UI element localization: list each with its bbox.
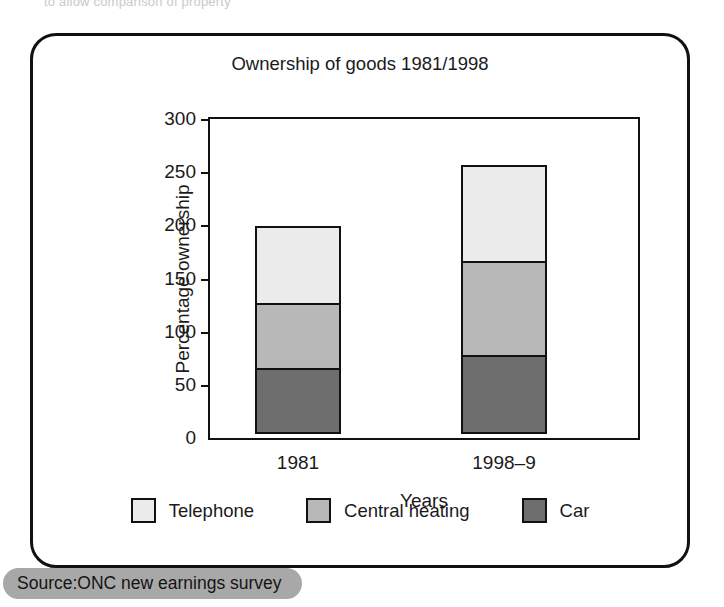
legend-label-telephone: Telephone bbox=[169, 500, 254, 522]
chart-title: Ownership of goods 1981/1998 bbox=[33, 53, 687, 75]
legend-swatch-car-icon bbox=[522, 498, 547, 523]
bar-segment-car-1981[interactable] bbox=[255, 368, 341, 434]
legend-label-central-heating: Central heating bbox=[344, 500, 469, 522]
legend-item-car[interactable]: Car bbox=[522, 498, 590, 523]
legend-item-telephone[interactable]: Telephone bbox=[131, 498, 254, 523]
source-note: Source:ONC new earnings survey bbox=[3, 568, 302, 599]
figure-container: Ownership of goods 1981/1998 Percentage … bbox=[30, 33, 690, 568]
y-tick-label-0: 0 bbox=[185, 427, 196, 449]
chart-legend: Telephone Central heating Car bbox=[33, 498, 687, 523]
y-tick-label-200: 200 bbox=[164, 214, 196, 236]
clipped-top-text: to allow comparison of property bbox=[44, 0, 231, 9]
bar-segment-telephone-1981[interactable] bbox=[255, 226, 341, 305]
bar-1981[interactable]: 1981 bbox=[255, 226, 341, 438]
legend-swatch-telephone-icon bbox=[131, 498, 156, 523]
y-tick-label-250: 250 bbox=[164, 161, 196, 183]
y-tick-label-50: 50 bbox=[175, 374, 196, 396]
y-tick-label-150: 150 bbox=[164, 268, 196, 290]
x-tick-label-1998-9: 1998–9 bbox=[472, 452, 535, 474]
plot-area: Percentage ownership 300 250 200 150 100… bbox=[208, 117, 640, 440]
bar-segment-central-heating-1981[interactable] bbox=[255, 303, 341, 370]
legend-swatch-central-heating-icon bbox=[306, 498, 331, 523]
x-tick-label-1981: 1981 bbox=[277, 452, 319, 474]
legend-label-car: Car bbox=[560, 500, 590, 522]
y-tick-label-300: 300 bbox=[164, 108, 196, 130]
bar-segment-telephone-1998-9[interactable] bbox=[461, 165, 547, 263]
bar-1998-9[interactable]: 1998–9 bbox=[461, 165, 547, 438]
bar-segment-central-heating-1998-9[interactable] bbox=[461, 261, 547, 358]
y-tick-label-100: 100 bbox=[164, 321, 196, 343]
legend-item-central-heating[interactable]: Central heating bbox=[306, 498, 469, 523]
bar-segment-car-1998-9[interactable] bbox=[461, 355, 547, 434]
